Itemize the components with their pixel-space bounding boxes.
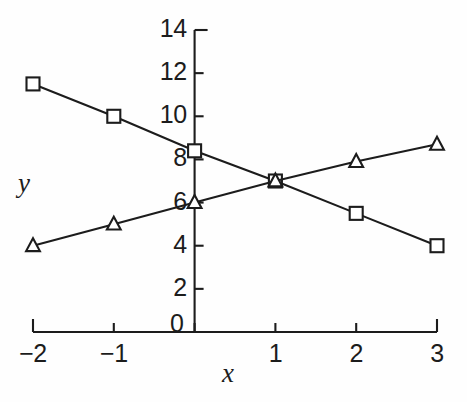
marker-square <box>27 77 40 90</box>
y-tick-label: 2 <box>123 273 187 302</box>
marker-triangle <box>430 137 444 150</box>
x-tick-label: −1 <box>84 339 144 368</box>
y-tick-label: 8 <box>123 143 187 172</box>
plot-area <box>0 0 467 402</box>
y-tick-label: 4 <box>123 230 187 259</box>
y-tick-label: 14 <box>123 14 187 43</box>
x-tick-label: 2 <box>326 339 386 368</box>
y-axis-title: y <box>18 168 30 199</box>
x-tick-label: −2 <box>3 339 63 368</box>
series-line-decreasing-line <box>33 84 437 246</box>
x-tick-label: 0 <box>147 309 207 338</box>
axis-lines <box>33 30 437 332</box>
series-line-increasing-line <box>33 144 437 245</box>
y-tick-label: 10 <box>123 100 187 129</box>
marker-square <box>188 144 201 157</box>
marker-square <box>431 239 444 252</box>
x-tick-label: 1 <box>245 339 305 368</box>
chart-figure: −2−101232468101214 y x <box>0 0 467 402</box>
y-tick-label: 6 <box>123 187 187 216</box>
y-tick-label: 12 <box>123 57 187 86</box>
x-axis-title: x <box>222 358 234 389</box>
marker-square <box>350 207 363 220</box>
x-tick-label: 3 <box>407 339 467 368</box>
data-series-layer <box>26 77 444 252</box>
marker-square <box>107 110 120 123</box>
